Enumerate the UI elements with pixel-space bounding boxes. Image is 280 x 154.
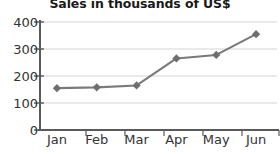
- x-tick-label-jun: Jun: [234, 133, 278, 146]
- x-tick-label-feb: Feb: [75, 133, 119, 146]
- x-tick-label-mar: Mar: [115, 133, 159, 146]
- x-tick-label-apr: Apr: [154, 133, 198, 146]
- x-axis-tick-labels: JanFebMarAprMayJun: [0, 0, 280, 154]
- line-chart: Sales in thousands of US$: [0, 0, 280, 154]
- x-tick-label-jan: Jan: [35, 133, 79, 146]
- x-tick-label-may: May: [194, 133, 238, 146]
